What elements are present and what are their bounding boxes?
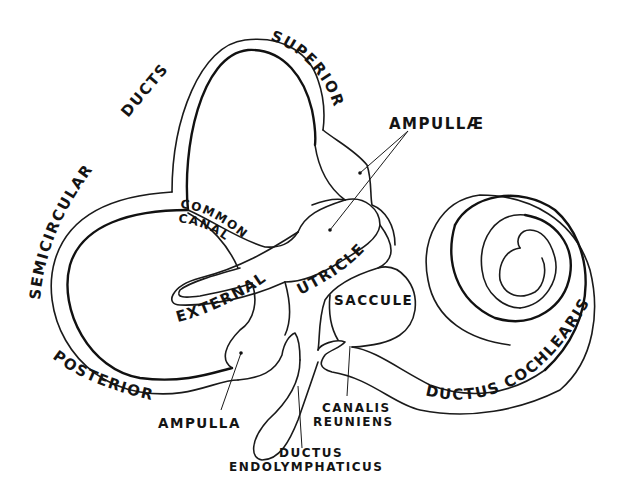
label-posterior: POSTERIOR [50,347,156,404]
label-ampulla: AMPULLA [158,415,241,431]
ampullae-dot-2 [328,228,332,232]
posterior-ampulla [238,333,300,380]
label-canalis: CANALIS [322,401,391,415]
canalis-pointer [347,346,350,396]
label-saccule: SACCULE [334,292,413,308]
label-ductus-cochlearis: DUCTUS COCHLEARIS [424,294,593,403]
ampullae-pointer-1 [360,131,408,173]
label-ductus: DUCTUS [279,446,343,460]
ampullae-pointer-2 [330,131,408,230]
label-semicircular-ducts: SEMICIRCULAR [26,161,97,301]
label-endolymphaticus: ENDOLYMPHATICUS [229,460,383,474]
label-ducts: DUCTS [117,60,172,121]
label-ampullae: AMPULLÆ [389,115,485,133]
ampulla-dot [239,351,243,355]
superior-duct [172,39,324,210]
ampullae-dot-1 [358,171,362,175]
label-reuniens: REUNIENS [313,415,394,429]
labyrinth-diagram: SEMICIRCULAR DUCTS SUPERIOR AMPULLÆ COMM… [0,0,621,497]
label-utricle: UTRICLE [294,239,369,298]
